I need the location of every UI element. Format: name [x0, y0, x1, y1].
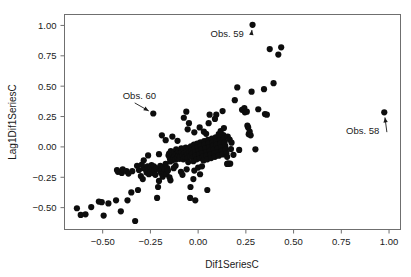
data-point: [152, 172, 158, 178]
data-point: [206, 112, 212, 118]
scatter-plot-figure: −0.50−0.250.000.250.500.751.00 −0.50−0.2…: [0, 0, 411, 277]
data-point: [156, 151, 162, 157]
annotation-arrow-head: [249, 30, 253, 35]
data-point: [190, 176, 196, 182]
x-axis-ticks: −0.50−0.250.000.250.500.751.00: [91, 230, 399, 247]
x-tick-label: 1.00: [380, 236, 399, 247]
data-point: [204, 187, 210, 193]
y-tick-label: 0.50: [38, 81, 57, 92]
data-point: [219, 108, 225, 114]
data-point: [101, 212, 107, 218]
data-point: [82, 211, 88, 217]
data-point: [221, 125, 227, 131]
data-point: [232, 97, 238, 103]
data-point: [163, 137, 169, 143]
data-point: [228, 146, 234, 152]
data-point: [155, 184, 161, 190]
x-tick-label: −0.25: [138, 236, 162, 247]
y-axis-ticks: −0.50−0.250.000.250.500.751.00: [32, 20, 64, 213]
data-point: [278, 44, 284, 50]
annotation-arrow-head: [383, 117, 387, 122]
data-point: [184, 166, 190, 172]
data-point: [249, 22, 255, 28]
data-point: [206, 120, 212, 126]
data-point: [128, 189, 134, 195]
data-point: [179, 172, 185, 178]
annotation-label: Obs. 60: [123, 90, 156, 101]
data-point: [113, 197, 119, 203]
data-point: [224, 154, 230, 160]
data-point: [159, 132, 165, 138]
data-point: [203, 131, 209, 137]
data-point: [236, 147, 242, 153]
y-tick-label: 0.00: [38, 141, 57, 152]
data-point: [185, 126, 191, 132]
data-point: [187, 184, 193, 190]
data-point: [105, 200, 111, 206]
y-tick-label: −0.25: [32, 172, 56, 183]
data-point: [191, 129, 197, 135]
data-point: [199, 163, 205, 169]
annotation-label: Obs. 58: [346, 125, 379, 136]
data-point: [228, 140, 234, 146]
data-point: [129, 168, 135, 174]
data-point: [169, 133, 175, 139]
data-point: [183, 109, 189, 115]
data-point: [252, 146, 258, 152]
data-point: [145, 152, 151, 158]
data-point: [88, 204, 94, 210]
plot-frame: [65, 15, 401, 230]
data-point: [264, 112, 270, 118]
data-point: [99, 199, 105, 205]
data-point: [165, 167, 171, 173]
data-point: [181, 115, 187, 121]
data-point: [255, 106, 261, 112]
x-tick-label: −0.50: [91, 236, 115, 247]
plot-canvas: −0.50−0.250.000.250.500.751.00 −0.50−0.2…: [0, 0, 411, 277]
data-point: [212, 116, 218, 122]
data-point: [167, 177, 173, 183]
y-tick-label: 1.00: [38, 20, 57, 31]
data-point: [261, 86, 267, 92]
data-point: [150, 110, 156, 116]
x-tick-label: 0.00: [189, 236, 208, 247]
data-point: [230, 152, 236, 158]
data-point: [244, 109, 250, 115]
data-point: [192, 197, 198, 203]
data-point: [132, 218, 138, 224]
data-point: [186, 120, 192, 126]
data-point: [124, 197, 130, 203]
data-point: [234, 84, 240, 90]
data-point: [140, 176, 146, 182]
data-point: [171, 165, 177, 171]
data-point: [270, 80, 276, 86]
data-point: [248, 132, 254, 138]
y-tick-label: 0.25: [38, 111, 57, 122]
data-point: [135, 187, 141, 193]
data-point: [154, 195, 160, 201]
x-axis-title: Dif1SeriesC: [205, 259, 258, 270]
y-tick-label: −0.50: [32, 202, 56, 213]
data-point: [74, 205, 80, 211]
y-tick-label: 0.75: [38, 50, 57, 61]
data-point: [275, 51, 281, 57]
data-point: [141, 157, 147, 163]
data-points: [74, 22, 388, 224]
annotations: Obs. 59Obs. 60Obs. 58: [123, 28, 388, 136]
data-point: [197, 171, 203, 177]
x-tick-label: 0.50: [284, 236, 303, 247]
data-point: [118, 208, 124, 214]
x-tick-label: 0.75: [332, 236, 351, 247]
y-axis-title: Lag1Dif1SeriesC: [7, 84, 18, 160]
annotation-label: Obs. 59: [211, 28, 244, 39]
data-point: [381, 109, 387, 115]
data-point: [248, 89, 254, 95]
x-tick-label: 0.25: [237, 236, 256, 247]
data-point: [174, 138, 180, 144]
data-point: [224, 161, 230, 167]
data-point: [267, 46, 273, 52]
